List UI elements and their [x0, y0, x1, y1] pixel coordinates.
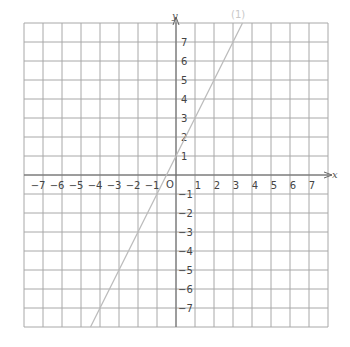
- x-tick-label: −4: [88, 180, 103, 191]
- x-tick-label: 4: [252, 180, 258, 191]
- y-tick-label: −2: [178, 208, 193, 219]
- y-tick-label: 5: [181, 75, 187, 86]
- y-tick-label: −6: [178, 284, 193, 295]
- y-tick-label: −4: [178, 246, 193, 257]
- x-tick-label: −6: [50, 180, 65, 191]
- y-tick-label: −3: [178, 227, 193, 238]
- x-tick-label: −1: [145, 180, 160, 191]
- axes: [24, 17, 332, 327]
- x-tick-label: 5: [271, 180, 277, 191]
- y-tick-label: 7: [181, 37, 187, 48]
- origin-label: O: [166, 179, 174, 190]
- x-tick-label: 1: [195, 180, 201, 191]
- y-tick-label: 4: [181, 94, 187, 105]
- y-tick-label: 1: [181, 151, 187, 162]
- x-tick-label: 6: [290, 180, 296, 191]
- x-tick-label: −3: [107, 180, 122, 191]
- x-tick-label: 2: [214, 180, 220, 191]
- y-tick-label: −1: [178, 189, 193, 200]
- x-tick-label: −5: [69, 180, 84, 191]
- x-tick-label: −2: [126, 180, 141, 191]
- y-tick-label: −7: [178, 303, 193, 314]
- line-label: (1): [231, 9, 245, 20]
- coordinate-plane: −7−6−5−4−3−2−112345677654321−1−2−3−4−5−6…: [0, 0, 350, 347]
- x-tick-label: 3: [233, 180, 239, 191]
- y-tick-label: 6: [181, 56, 187, 67]
- y-tick-label: 3: [181, 113, 187, 124]
- x-tick-label: −7: [31, 180, 46, 191]
- y-axis-label: y: [171, 10, 178, 21]
- y-tick-label: −5: [178, 265, 193, 276]
- x-tick-label: 7: [309, 180, 315, 191]
- x-axis-label: x: [332, 169, 338, 180]
- y-tick-label: 2: [181, 132, 187, 143]
